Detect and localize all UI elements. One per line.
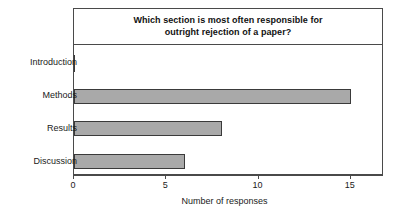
x-axis-line	[73, 175, 383, 176]
x-tick-2	[258, 175, 259, 179]
x-tick-label-3: 15	[345, 180, 355, 190]
chart-frame: Which section is most often responsible …	[73, 8, 383, 175]
x-tick-label-0: 0	[70, 180, 75, 190]
category-label-discussion: Discussion	[33, 156, 77, 166]
chart-title-line-1: Which section is most often responsible …	[133, 15, 322, 25]
chart-title-band: Which section is most often responsible …	[74, 9, 382, 45]
x-tick-1	[165, 175, 166, 179]
chart-title: Which section is most often responsible …	[127, 15, 328, 38]
x-axis-title: Number of responses	[0, 196, 403, 206]
bar-discussion	[74, 154, 185, 169]
x-axis-title-text: Number of responses	[181, 196, 267, 206]
category-label-methods: Methods	[42, 90, 77, 100]
category-label-introduction: Introduction	[30, 57, 77, 67]
bar-methods	[74, 89, 351, 104]
category-label-results: Results	[47, 123, 77, 133]
x-tick-0	[73, 175, 74, 179]
plot-area	[74, 45, 382, 174]
bar-results	[74, 121, 222, 136]
x-tick-label-2: 10	[253, 180, 263, 190]
x-tick-3	[350, 175, 351, 179]
x-tick-label-1: 5	[163, 180, 168, 190]
chart-title-line-2: outright rejection of a paper?	[165, 27, 292, 37]
bar-chart-figure: Which section is most often responsible …	[0, 0, 403, 218]
